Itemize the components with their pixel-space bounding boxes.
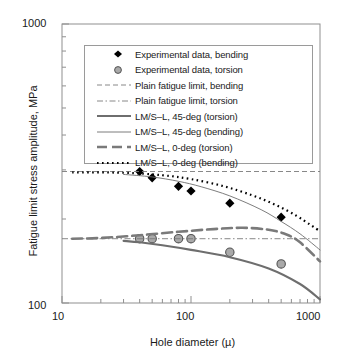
legend-item-3[interactable]: Plain fatigue limit, torsion — [85, 94, 312, 109]
x-axis-title: Hole diameter (µ) — [60, 336, 325, 348]
legend-key-line-dashed-thick-icon — [85, 140, 135, 154]
legend-key-marker-diamond-icon — [85, 47, 135, 61]
x-tick-label-10: 10 — [52, 310, 64, 322]
series-1-marker-4 — [226, 248, 234, 256]
legend-key-line-dotted-icon — [85, 156, 135, 170]
legend-label-4: LM/S–L, 45-deg (torsion) — [135, 111, 238, 122]
legend-label-0: Experimental data, bending — [135, 49, 248, 60]
legend-item-0[interactable]: Experimental data, bending — [85, 47, 312, 62]
legend-label-1: Experimental data, torsion — [135, 64, 243, 75]
legend-label-7: LM/S–L, 0-deg (bending) — [135, 157, 238, 168]
x-tick-label-100: 100 — [176, 310, 194, 322]
legend-key-line-solid-thin-icon — [85, 125, 135, 139]
legend-item-4[interactable]: LM/S–L, 45-deg (torsion) — [85, 109, 312, 124]
series-0-marker-3 — [186, 186, 195, 195]
series-1-marker-5 — [277, 260, 285, 268]
legend-label-2: Plain fatigue limit, bending — [135, 80, 243, 91]
series-4-curve — [124, 241, 320, 300]
x-tick-label-1000: 1000 — [296, 310, 320, 322]
legend-label-6: LM/S–L, 0-deg (torsion) — [135, 142, 233, 153]
y-tick-label-100: 100 — [28, 299, 46, 311]
legend-label-5: LM/S–L, 45-deg (bending) — [135, 126, 243, 137]
legend-item-5[interactable]: LM/S–L, 45-deg (bending) — [85, 125, 312, 140]
legend-label-3: Plain fatigue limit, torsion — [135, 95, 238, 106]
legend-key-marker-circle-icon — [85, 63, 135, 77]
legend-item-7[interactable]: LM/S–L, 0-deg (bending) — [85, 156, 312, 171]
legend-key-line-solid-thick-icon — [85, 109, 135, 123]
legend-item-1[interactable]: Experimental data, torsion — [85, 63, 312, 78]
legend-item-2[interactable]: Plain fatigue limit, bending — [85, 78, 312, 93]
series-0-marker-4 — [225, 199, 234, 208]
series-0-marker-5 — [277, 213, 286, 222]
series-0-marker-2 — [174, 182, 183, 191]
y-axis-title: Fatigue limit stress amplitude, MPa — [27, 56, 39, 286]
series-6-curve — [72, 228, 320, 262]
legend-key-line-dashdot-icon — [85, 94, 135, 108]
y-tick-label-1000: 1000 — [22, 17, 46, 29]
chart-legend: Experimental data, bendingExperimental d… — [84, 45, 313, 164]
legend-key-line-dashed-icon — [85, 78, 135, 92]
figure-container: Fatigue limit stress amplitude, MPa Hole… — [0, 0, 346, 359]
legend-item-6[interactable]: LM/S–L, 0-deg (torsion) — [85, 140, 312, 155]
